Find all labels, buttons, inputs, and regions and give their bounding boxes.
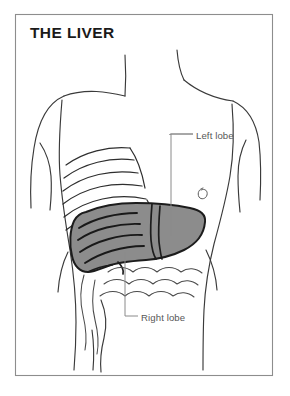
label-left-lobe: Left lobe (196, 130, 234, 141)
liver-anatomy-figure: THE LIVER Left lobe Right lobe (0, 0, 290, 396)
figure-title: THE LIVER (30, 24, 115, 42)
label-right-lobe: Right lobe (141, 312, 185, 323)
anatomy-illustration-svg (0, 0, 290, 396)
